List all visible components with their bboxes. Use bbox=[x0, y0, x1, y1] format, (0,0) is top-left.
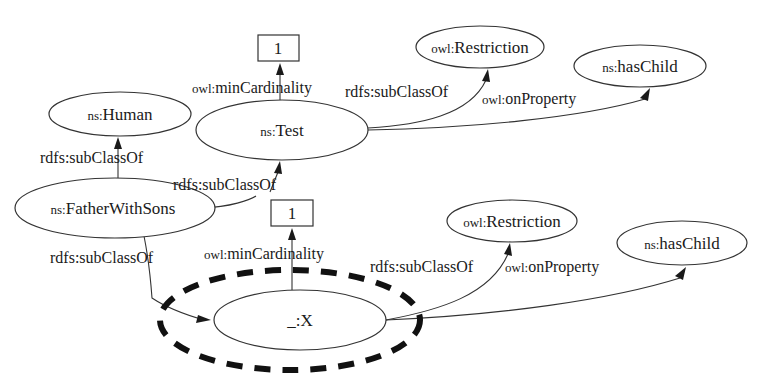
node-name: hasChild bbox=[659, 234, 720, 253]
edge-father-subclassof-x bbox=[144, 236, 211, 323]
node-name: Restriction bbox=[454, 38, 529, 57]
svg-text:ns:FatherWithSons: ns:FatherWithSons bbox=[51, 199, 176, 218]
node-ns-haschild-top[interactable]: ns:hasChild bbox=[574, 45, 706, 87]
edge-label-father-human: rdfs:subClassOf bbox=[40, 149, 144, 166]
node-name: hasChild bbox=[617, 57, 678, 76]
node-prefix: ns: bbox=[87, 108, 102, 123]
node-name: X bbox=[300, 311, 312, 330]
node-owl-restriction-top[interactable]: owl:Restriction bbox=[416, 26, 544, 68]
svg-text:ns:Human: ns:Human bbox=[87, 105, 153, 124]
node-prefix: ns: bbox=[602, 60, 617, 75]
node-prefix: _: bbox=[286, 311, 300, 330]
node-prefix: owl: bbox=[431, 41, 454, 56]
node-owl-restriction-bottom[interactable]: owl:Restriction bbox=[447, 200, 577, 242]
edge-label-x-subclassof: rdfs:subClassOf bbox=[370, 258, 474, 275]
node-name: Test bbox=[276, 121, 304, 140]
literal-node-bottom[interactable]: 1 bbox=[271, 200, 313, 226]
node-prefix: ns: bbox=[644, 237, 659, 252]
node-name: Human bbox=[103, 105, 154, 124]
node-name: Restriction bbox=[486, 212, 561, 231]
node-name: FatherWithSons bbox=[66, 199, 176, 218]
node-prefix: owl: bbox=[463, 215, 486, 230]
node-prefix: ns: bbox=[260, 124, 275, 139]
node-blank-x[interactable]: _:X bbox=[214, 290, 386, 350]
edge-label-father-x: rdfs:subClassOf bbox=[50, 249, 154, 266]
literal-value: 1 bbox=[274, 39, 283, 58]
edge-label-father-test: rdfs:subClassOf bbox=[173, 176, 277, 193]
svg-text:ns:Test: ns:Test bbox=[260, 121, 304, 140]
rdf-graph-diagram: 1 ns:Test owl:Restriction ns:hasChild ns… bbox=[0, 0, 783, 380]
node-ns-haschild-bottom[interactable]: ns:hasChild bbox=[617, 221, 747, 265]
svg-text:owl:Restriction: owl:Restriction bbox=[431, 38, 529, 57]
node-ns-human[interactable]: ns:Human bbox=[49, 92, 191, 136]
edge-label-test-onproperty: owl:onProperty bbox=[482, 90, 576, 108]
edge-label-test-mincardinality: owl:minCardinality bbox=[192, 79, 312, 97]
svg-text:owl:Restriction: owl:Restriction bbox=[463, 212, 561, 231]
edge-label-test-subclassof: rdfs:subClassOf bbox=[345, 83, 449, 100]
svg-text:_:X: _:X bbox=[286, 311, 313, 330]
svg-text:ns:hasChild: ns:hasChild bbox=[644, 234, 720, 253]
edge-label-x-mincardinality: owl:minCardinality bbox=[204, 245, 324, 263]
edge-label-x-onproperty: owl:onProperty bbox=[505, 258, 599, 276]
node-ns-test[interactable]: ns:Test bbox=[196, 100, 368, 160]
svg-text:ns:hasChild: ns:hasChild bbox=[602, 57, 678, 76]
literal-node-top[interactable]: 1 bbox=[258, 35, 299, 61]
literal-value: 1 bbox=[288, 204, 297, 223]
edge-x-subclassof-restriction bbox=[386, 243, 512, 320]
node-prefix: ns: bbox=[51, 202, 66, 217]
